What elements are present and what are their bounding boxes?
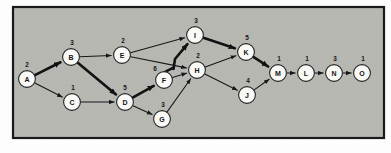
node-f-label: F — [162, 77, 167, 84]
node-b-duration: 3 — [70, 39, 74, 46]
node-g-duration: 3 — [161, 101, 165, 108]
node-l-duration: 1 — [305, 55, 309, 62]
node-n-duration: 3 — [333, 55, 337, 62]
node-o-label: O — [359, 70, 365, 77]
node-h-label: H — [194, 67, 199, 74]
node-b-label: B — [68, 54, 73, 61]
network-graph-canvas: 2A3B1C5D2E6F3G2H3I4J5K1L1M3N1O — [0, 0, 391, 153]
node-f-duration: 6 — [153, 65, 157, 72]
node-k-duration: 5 — [245, 34, 249, 41]
node-d-label: D — [122, 99, 127, 106]
node-m-duration: 1 — [277, 55, 281, 62]
node-h-duration: 2 — [196, 52, 200, 59]
node-j-duration: 4 — [246, 77, 250, 84]
node-n-label: N — [331, 70, 336, 77]
node-a-label: A — [24, 76, 29, 83]
node-j-label: J — [245, 92, 249, 99]
activity-network-diagram: 2A3B1C5D2E6F3G2H3I4J5K1L1M3N1O — [0, 0, 391, 153]
node-e-duration: 2 — [121, 37, 125, 44]
node-g-label: G — [159, 116, 165, 123]
node-a-duration: 2 — [25, 61, 29, 68]
node-i-label: I — [194, 32, 196, 39]
node-l-label: L — [304, 70, 309, 77]
node-c-duration: 1 — [71, 84, 75, 91]
node-c-label: C — [69, 99, 74, 106]
node-d-duration: 5 — [123, 84, 127, 91]
node-m-label: M — [275, 70, 281, 77]
node-k-label: K — [243, 49, 248, 56]
node-e-label: E — [120, 52, 125, 59]
node-i-duration: 3 — [194, 17, 198, 24]
node-o-duration: 1 — [361, 55, 365, 62]
